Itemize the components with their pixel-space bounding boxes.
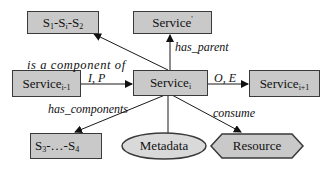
label-input: I, P	[88, 72, 105, 84]
service-next-label: Servicei+1	[260, 76, 310, 92]
resource-label: Resource	[211, 133, 303, 158]
label-is-component-of: is a component of	[27, 59, 126, 72]
service-prev-label: Servicei-1	[23, 76, 71, 92]
s1-si-s2-label: S1-Si-S2	[43, 15, 84, 31]
node-s1-si-s2: S1-Si-S2	[27, 11, 99, 34]
node-service-i: Servicei	[133, 70, 208, 96]
label-output: O, E	[214, 72, 236, 84]
label-consume: consume	[213, 107, 255, 119]
metadata-label: Metadata	[122, 133, 206, 159]
label-has-parent: has_parent	[175, 41, 229, 53]
service-i-label: Servicei	[150, 75, 191, 91]
s3-s4-label: S3-…-S4	[35, 138, 79, 154]
node-service-parent: Service'	[133, 11, 212, 34]
service-relationship-diagram: S1-Si-S2 Service' Servicei-1 Servicei Se…	[0, 0, 329, 171]
node-service-prev: Servicei-1	[12, 70, 81, 97]
node-s3-s4: S3-…-S4	[30, 133, 102, 159]
service-parent-label: Service'	[152, 15, 192, 31]
node-service-next: Servicei+1	[249, 70, 320, 97]
label-has-components: has_components	[48, 103, 128, 115]
